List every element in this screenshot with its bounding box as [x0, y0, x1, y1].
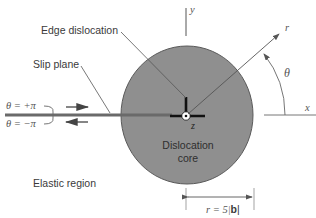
z-axis-dot [185, 115, 188, 118]
theta-plus-label: θ = +π [6, 100, 36, 111]
y-axis-label: y [190, 4, 195, 15]
r-label: r [285, 22, 289, 33]
edge-dislocation-label: Edge dislocation [41, 24, 118, 36]
theta-label: θ [284, 66, 290, 81]
theta-arc [264, 54, 285, 115]
theta-minus-label: θ = −π [6, 118, 36, 129]
slip-plane-label: Slip plane [33, 58, 79, 70]
core-label-line1: Dislocation [158, 139, 218, 152]
dislocation-diagram: Edge dislocation Slip plane θ = +π θ = −… [0, 0, 316, 218]
core-radius-prefix: r = 5| [206, 204, 231, 215]
z-axis-label: z [191, 120, 195, 131]
slip-plane-leader [81, 66, 110, 113]
dislocation-core-label: Dislocation core [158, 139, 218, 165]
elastic-region-label: Elastic region [33, 177, 96, 189]
core-radius-label: r = 5|b| [206, 203, 240, 215]
core-label-line2: core [158, 152, 218, 165]
core-radius-suffix: | [237, 203, 240, 215]
x-axis-label: x [305, 102, 310, 113]
